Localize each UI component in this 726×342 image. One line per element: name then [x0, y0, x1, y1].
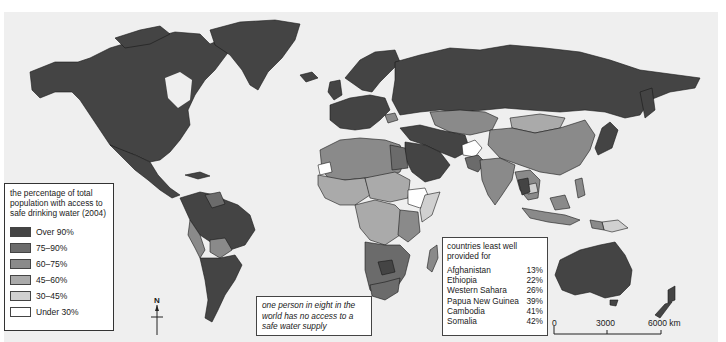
legend-item: 60–75% — [10, 256, 108, 272]
legend-item: Under 30% — [10, 304, 108, 320]
legend-item: 45–60% — [10, 272, 108, 288]
country-value: 42% — [526, 316, 543, 326]
country-name: Afghanistan — [447, 265, 491, 275]
legend-swatch — [10, 259, 31, 269]
legend-title: the percentage of total population with … — [10, 188, 108, 218]
least-provided-title: countries least well provided for — [447, 241, 543, 261]
region-australia — [555, 242, 632, 298]
least-provided-row: Papua New Guinea 39% — [447, 296, 543, 306]
least-provided-row: Western Sahara 26% — [447, 285, 543, 295]
legend-swatch — [10, 291, 31, 301]
region-sudan-chad — [365, 172, 410, 202]
region-madagascar — [427, 245, 438, 272]
region-scandinavia — [345, 50, 400, 92]
region-egypt — [390, 145, 408, 170]
least-provided-row: Cambodia 41% — [447, 306, 543, 316]
country-value: 39% — [526, 296, 543, 306]
region-east-africa — [398, 210, 420, 242]
least-provided-row: Somalia 42% — [447, 316, 543, 326]
legend-label: 30–45% — [36, 291, 67, 301]
least-provided-row: Afghanistan 13% — [447, 265, 543, 275]
country-value: 13% — [526, 265, 543, 275]
legend-label: 60–75% — [36, 259, 67, 269]
least-provided-box: countries least well provided for Afghan… — [442, 237, 548, 336]
north-arrow-icon — [150, 305, 164, 335]
legend-swatch — [10, 227, 31, 237]
legend-label: 45–60% — [36, 275, 67, 285]
legend-swatch — [10, 307, 31, 317]
scale-tick-3000: 3000 — [596, 318, 615, 328]
region-romania — [385, 113, 398, 123]
legend-item: Over 90% — [10, 224, 108, 240]
north-arrow-label: N — [150, 296, 164, 305]
legend-label: Over 90% — [36, 227, 74, 237]
legend-item: 30–45% — [10, 288, 108, 304]
region-papua-new-guinea — [602, 220, 628, 232]
region-indonesia — [522, 208, 580, 225]
legend-label: 75–90% — [36, 243, 67, 253]
legend-swatch — [10, 243, 31, 253]
country-value: 26% — [526, 285, 543, 295]
region-uk — [328, 80, 342, 100]
scale-tick-6000: 6000 km — [648, 318, 681, 328]
legend-item: 75–90% — [10, 240, 108, 256]
least-provided-row: Ethiopia 22% — [447, 275, 543, 285]
country-name: Papua New Guinea — [447, 296, 519, 306]
north-arrow: N — [150, 296, 164, 336]
region-india — [480, 158, 515, 205]
country-name: Cambodia — [447, 306, 485, 316]
region-north-america — [30, 32, 230, 162]
country-name: Western Sahara — [447, 285, 507, 295]
legend: the percentage of total population with … — [4, 183, 114, 331]
country-name: Ethiopia — [447, 275, 477, 285]
region-thailand — [518, 178, 530, 195]
fact-box: one person in eight in the world has no … — [256, 296, 372, 336]
region-western-europe — [330, 95, 390, 130]
region-new-zealand — [668, 286, 675, 303]
country-value: 22% — [526, 275, 543, 285]
scale-tick-0: 0 — [552, 318, 557, 328]
country-value: 41% — [526, 306, 543, 316]
region-south-america-south — [200, 255, 242, 322]
legend-label: Under 30% — [36, 307, 79, 317]
region-japan — [595, 122, 618, 155]
region-central-africa — [355, 200, 405, 245]
legend-swatch — [10, 275, 31, 285]
country-name: Somalia — [447, 316, 477, 326]
